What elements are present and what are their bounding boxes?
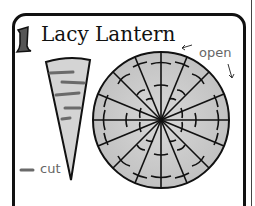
cut-label: cut: [40, 161, 60, 176]
open-label: open: [199, 45, 231, 60]
unfolded-circle: [93, 52, 229, 188]
lantern-diagram: [0, 0, 255, 206]
